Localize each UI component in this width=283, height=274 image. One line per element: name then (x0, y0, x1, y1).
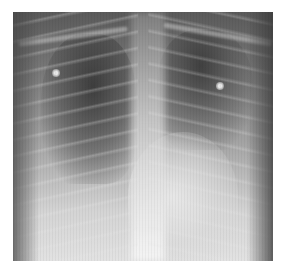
chest-xray-image (13, 12, 273, 261)
xray-scan-texture (13, 12, 273, 261)
